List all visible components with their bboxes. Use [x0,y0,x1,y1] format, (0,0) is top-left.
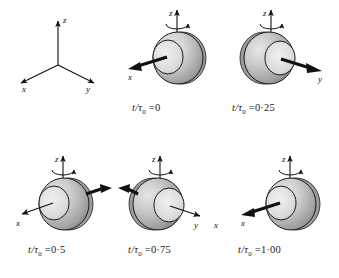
marker-spot [265,41,295,75]
axis-z: z [58,15,67,65]
caption-t100: t/τ0 =1·00 [238,244,281,258]
axis-label-z: z [168,8,173,18]
panel-t100: z x t/τ0 =1·00 [238,150,338,246]
axis-label-z: z [54,154,59,164]
reference-axes-triad: z x y [6,8,110,98]
marker-spot [153,40,183,74]
axis-x: x [21,65,58,94]
panel-t0: z x t/τ0 =0 [120,2,220,104]
caption-t05: t/τ0 =0·5 [28,244,65,258]
back-arrow [86,184,112,194]
sphere-body [240,32,295,84]
panel-t075: z y x t/τ0 =0·75 [118,150,230,246]
axis-label-y: y [317,74,322,84]
sphere-body [129,178,184,230]
axis-y: y [58,65,94,94]
panel-t025: z y t/τ0 =0·25 [228,2,336,104]
panel-t05: z x t/τ0 =0·5 [8,150,114,246]
marker-spot [39,186,69,220]
caption-t075: t/τ0 =0·75 [128,244,171,258]
caption-t0: t/τ0 =0 [132,102,160,116]
axis-label-z: z [262,8,267,18]
axis-label-z: z [281,154,286,164]
axis-label-x: x [15,218,20,228]
axis-label-y: y [85,84,90,94]
axis-label-x: x [21,84,26,94]
caption-t025: t/τ0 =0·25 [232,102,275,116]
figure-canvas: z x y [0,0,339,278]
sphere-body [39,178,93,230]
axis-label-x: x [240,218,245,228]
axis-label-z: z [151,154,156,164]
axis-label-x-adjacent: x [213,220,218,230]
axis-label-z: z [62,15,67,25]
axis-label-y: y [193,220,198,230]
marker-spot [266,186,296,220]
axis-label-x: x [127,72,132,82]
marker-spot [154,188,184,222]
